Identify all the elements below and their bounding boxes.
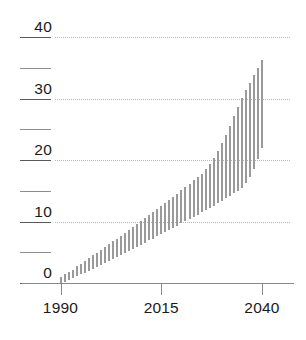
- y-axis-label-30: 30: [18, 80, 52, 98]
- bar: [96, 253, 98, 267]
- bar: [229, 126, 231, 196]
- bar: [217, 151, 219, 203]
- bar: [124, 233, 126, 253]
- y-tick-30: [20, 99, 51, 100]
- bar: [160, 206, 162, 234]
- y-tick-10: [20, 222, 51, 223]
- x-tick-2040: [262, 283, 263, 295]
- bar: [100, 250, 102, 265]
- bar: [156, 209, 158, 236]
- bar: [237, 107, 239, 191]
- y-axis-label-0: 0: [18, 264, 52, 282]
- x-axis-label-2015: 2015: [144, 299, 179, 317]
- bar: [205, 169, 207, 210]
- bar: [261, 60, 263, 147]
- bar: [253, 75, 255, 169]
- bar: [108, 244, 110, 261]
- bar: [197, 177, 199, 215]
- y-axis-label-20: 20: [18, 141, 52, 159]
- bar: [84, 261, 86, 273]
- bar: [92, 255, 94, 269]
- bar: [180, 190, 182, 223]
- y-axis-label-wrap-0: 0: [16, 264, 52, 282]
- bar: [213, 158, 215, 205]
- bar: [233, 116, 235, 193]
- gridline-40: [55, 37, 290, 38]
- x-axis-label-1990: 1990: [43, 299, 78, 317]
- bar: [120, 236, 122, 256]
- y-axis-label-wrap-10: 10: [16, 203, 52, 221]
- bar: [116, 239, 118, 258]
- bar: [168, 200, 170, 230]
- bar: [76, 266, 78, 276]
- y-axis-label-wrap-20: 20: [16, 141, 52, 159]
- y-tick-5: [20, 252, 51, 253]
- bar: [144, 218, 146, 243]
- bar: [221, 143, 223, 200]
- bar: [60, 277, 62, 283]
- bar: [201, 174, 203, 213]
- bar: [140, 221, 142, 245]
- bar: [132, 227, 134, 249]
- bar: [164, 203, 166, 232]
- bar: [245, 90, 247, 183]
- y-axis-label-wrap-40: 40: [16, 18, 52, 36]
- bar: [68, 272, 70, 280]
- y-axis-label-40: 40: [18, 18, 52, 36]
- bar: [80, 264, 82, 275]
- y-tick-35: [20, 68, 51, 69]
- y-tick-40: [20, 37, 51, 38]
- bar: [148, 215, 150, 240]
- bar: [128, 230, 130, 251]
- range-bar-chart: 010203040 199020152040: [0, 0, 306, 340]
- bar: [241, 98, 243, 188]
- y-tick-15: [20, 191, 51, 192]
- bar: [112, 241, 114, 259]
- bar: [136, 224, 138, 247]
- bar: [209, 164, 211, 208]
- bar: [249, 83, 251, 177]
- x-tick-2015: [161, 283, 162, 295]
- bar: [176, 194, 178, 226]
- bar: [172, 197, 174, 228]
- bar: [88, 258, 90, 270]
- x-tick-1990: [61, 283, 62, 295]
- y-tick-20: [20, 160, 51, 161]
- x-axis-label-2040: 2040: [244, 299, 279, 317]
- y-axis-label-10: 10: [18, 203, 52, 221]
- x-axis-line: [22, 283, 294, 284]
- y-tick-25: [20, 129, 51, 130]
- bar: [64, 274, 66, 281]
- bar: [104, 247, 106, 263]
- bar: [184, 187, 186, 221]
- bar: [72, 270, 74, 279]
- bar: [189, 184, 191, 219]
- y-axis-label-wrap-30: 30: [16, 80, 52, 98]
- bar: [152, 212, 154, 238]
- bar: [193, 180, 195, 216]
- bar: [225, 135, 227, 198]
- bar: [257, 68, 259, 159]
